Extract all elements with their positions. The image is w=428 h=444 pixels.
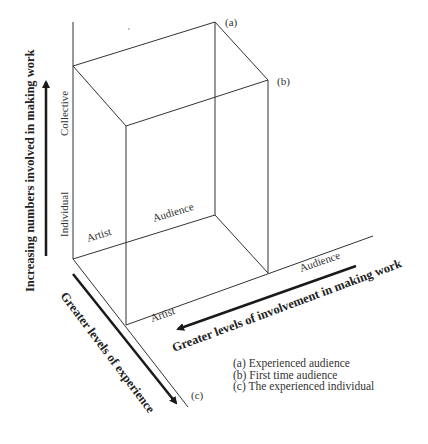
back-label-artist: Artist <box>85 225 112 244</box>
speck-dot <box>128 28 130 30</box>
corner-label-c: (c) <box>191 389 204 402</box>
vertical-axis-title: Increasing numbers involved in making wo… <box>23 49 37 292</box>
bottom-right-depth-edge <box>215 215 268 273</box>
corner-label-a: (a) <box>225 16 238 29</box>
horizontal-axis-title: Greater levels of involvement in making … <box>170 256 403 355</box>
tick-artist: Artist <box>149 304 177 324</box>
top-left-depth-edge <box>73 66 126 126</box>
top-right-depth-edge <box>215 22 268 80</box>
tick-audience: Audience <box>298 249 342 274</box>
top-back-edge <box>73 22 215 66</box>
corner-label-b: (b) <box>277 75 290 88</box>
back-label-audience: Audience <box>151 200 195 224</box>
tick-collective: Collective <box>58 91 70 136</box>
box-frame <box>73 22 373 407</box>
diagram-canvas: Increasing numbers involved in making wo… <box>0 0 428 444</box>
legend-item-c: (c) The experienced individual <box>233 380 374 393</box>
tick-individual: Individual <box>58 192 70 237</box>
depth-axis-title: Greater levels of experience <box>58 289 158 416</box>
legend: (a) Experienced audience (b) First time … <box>233 357 374 393</box>
top-front-edge <box>126 80 268 126</box>
